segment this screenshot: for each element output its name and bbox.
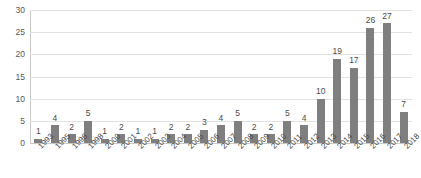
bar-value-label: 2 (268, 123, 273, 132)
y-axis-tick: 20 (16, 50, 25, 59)
bar-value-label: 5 (86, 109, 91, 118)
bar-value-label: 2 (185, 123, 190, 132)
x-axis-tick: 1998 (87, 145, 93, 151)
bar-slot: 17 (346, 10, 363, 143)
bar-slot: 2 (163, 10, 180, 143)
plot-area: 1425121122345225410191726277 (30, 10, 412, 143)
x-axis-tick: 2011 (286, 145, 292, 151)
bar (333, 59, 341, 143)
bar-slot: 2 (179, 10, 196, 143)
bar-value-label: 1 (36, 127, 41, 136)
bar-value-label: 27 (382, 12, 391, 21)
bar-value-label: 2 (252, 123, 257, 132)
x-axis-tick: 1995 (54, 145, 60, 151)
bar-value-label: 4 (302, 114, 307, 123)
bar-slot: 3 (196, 10, 213, 143)
bar-value-label: 19 (333, 47, 342, 56)
bar-slot: 1 (96, 10, 113, 143)
bar-value-label: 4 (53, 114, 58, 123)
bar-slot: 27 (379, 10, 396, 143)
bar-value-label: 5 (285, 109, 290, 118)
x-axis-tick: 2008 (237, 145, 243, 151)
x-axis-tick: 2002 (137, 145, 143, 151)
bar-slot: 2 (263, 10, 280, 143)
bar-value-label: 10 (316, 87, 325, 96)
y-axis-tick: 30 (16, 6, 25, 15)
bar-value-label: 7 (401, 100, 406, 109)
x-axis-tick: 2006 (203, 145, 209, 151)
y-axis-tick: 15 (16, 72, 25, 81)
x-axis-tick: 1993 (37, 145, 43, 151)
bar-value-label: 2 (119, 123, 124, 132)
y-axis-tick-labels: 051015202530 (0, 0, 28, 178)
bar-slot: 7 (395, 10, 412, 143)
bar-slot: 26 (362, 10, 379, 143)
x-axis-tick: 2014 (336, 145, 342, 151)
x-axis-tick: 2016 (369, 145, 375, 151)
bar (366, 28, 374, 143)
bar-value-label: 2 (69, 123, 74, 132)
x-axis-tick: 2003 (154, 145, 160, 151)
y-axis-tick: 10 (16, 94, 25, 103)
bar-slot: 5 (279, 10, 296, 143)
x-axis-tick: 2017 (386, 145, 392, 151)
bar-slot: 1 (30, 10, 47, 143)
bar-slot: 5 (229, 10, 246, 143)
x-axis-tick: 1996 (71, 145, 77, 151)
x-axis-tick: 2004 (170, 145, 176, 151)
bar-slot: 2 (63, 10, 80, 143)
y-axis-tick: 25 (16, 28, 25, 37)
bar-slot: 5 (80, 10, 97, 143)
x-axis-tick: 2009 (253, 145, 259, 151)
x-axis-tick: 2013 (320, 145, 326, 151)
bar-chart: 051015202530 142512112234522541019172627… (0, 0, 421, 178)
bar-slot: 1 (130, 10, 147, 143)
bar (383, 23, 391, 143)
bar-slot: 2 (113, 10, 130, 143)
bar-slot: 4 (213, 10, 230, 143)
x-axis-tick: 2000 (104, 145, 110, 151)
x-axis-tick: 2007 (220, 145, 226, 151)
bar-value-label: 3 (202, 118, 207, 127)
bar-value-label: 1 (152, 127, 157, 136)
bar-slot: 2 (246, 10, 263, 143)
bar-slot: 10 (312, 10, 329, 143)
bar-value-label: 26 (366, 16, 375, 25)
x-axis-tick: 2015 (353, 145, 359, 151)
bar (350, 68, 358, 143)
bar-value-label: 2 (169, 123, 174, 132)
bar-value-label: 1 (102, 127, 107, 136)
x-axis-tick-labels: 1993199519961998200020012002200320042005… (30, 145, 412, 178)
bar-value-label: 4 (219, 114, 224, 123)
y-axis-tick: 5 (20, 117, 25, 126)
bar-slot: 4 (47, 10, 64, 143)
bar-value-label: 1 (136, 127, 141, 136)
bar-value-label: 17 (349, 56, 358, 65)
bar-value-label: 5 (235, 109, 240, 118)
x-axis-tick: 2001 (120, 145, 126, 151)
x-axis-tick: 2010 (270, 145, 276, 151)
bar-slot: 19 (329, 10, 346, 143)
bar-slot: 4 (296, 10, 313, 143)
x-axis-tick: 2005 (187, 145, 193, 151)
bar-series: 1425121122345225410191726277 (30, 10, 412, 143)
x-axis-tick: 2018 (403, 145, 409, 151)
bar-slot: 1 (146, 10, 163, 143)
y-axis-tick: 0 (20, 139, 25, 148)
x-axis-tick: 2012 (303, 145, 309, 151)
